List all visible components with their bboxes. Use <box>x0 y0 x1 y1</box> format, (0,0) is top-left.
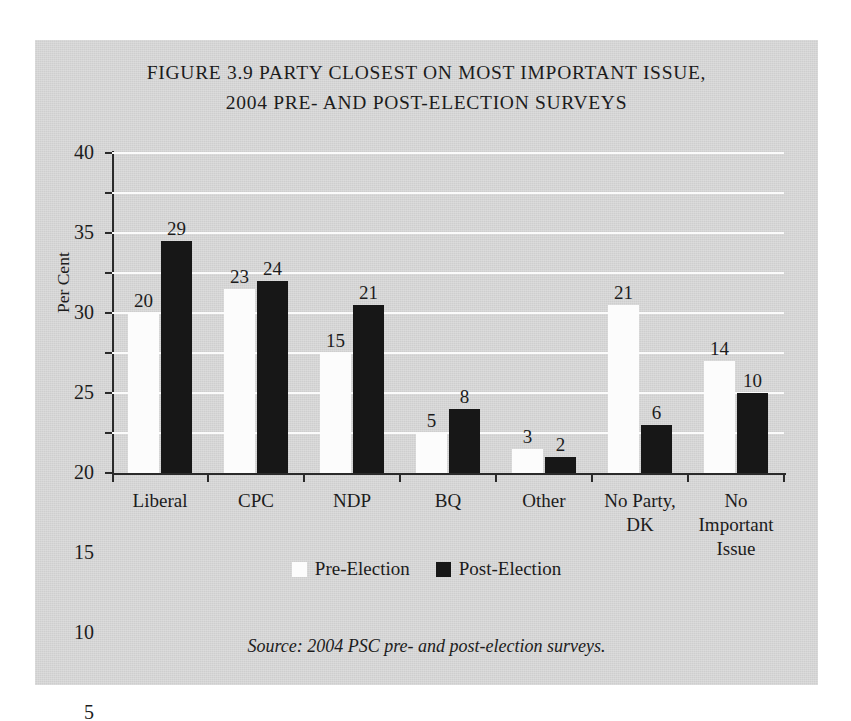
legend-label: Post-Election <box>459 558 561 580</box>
bar-value-label: 14 <box>710 339 729 358</box>
legend-swatch <box>292 562 307 577</box>
bar-value-label: 24 <box>263 259 282 278</box>
legend-label: Pre-Election <box>315 558 410 580</box>
y-axis-tick-label: 20 <box>74 461 94 484</box>
bar-post-election: 2 <box>545 457 576 473</box>
x-axis-tick-label: NDP <box>304 489 400 513</box>
bar-pre-election: 20 <box>128 313 159 473</box>
x-axis-tick <box>303 473 305 482</box>
y-axis-tick-label: 40 <box>74 141 94 164</box>
x-axis-tick-label-line: Important <box>699 514 774 535</box>
x-axis-tick-label-line: Liberal <box>133 490 188 511</box>
x-axis-tick-label: NoImportantIssue <box>688 489 784 561</box>
bar-post-election: 29 <box>161 241 192 473</box>
x-axis-tick <box>783 473 785 482</box>
x-axis-tick-label-line: NDP <box>333 490 371 511</box>
x-axis-tick-label-line: DK <box>626 514 653 535</box>
y-axis-tick-label: 30 <box>74 301 94 324</box>
bar-pre-election: 3 <box>512 449 543 473</box>
bar-pre-election: 5 <box>416 433 447 473</box>
x-axis-tick-label: Other <box>496 489 592 513</box>
bar-value-label: 6 <box>652 403 662 422</box>
y-axis-tick: 25 <box>105 272 112 274</box>
bar-value-label: 2 <box>556 435 566 454</box>
bar-value-label: 29 <box>167 219 186 238</box>
bar-post-election: 10 <box>737 393 768 473</box>
figure-title: Figure 3.9 Party Closest on Most Importa… <box>35 58 818 118</box>
bar-value-label: 3 <box>523 427 533 446</box>
x-axis-tick-label: BQ <box>400 489 496 513</box>
plot-area: 05101520253035402029Liberal2324CPC1521ND… <box>112 153 784 473</box>
y-axis-tick: 0 <box>105 472 112 474</box>
legend-item: Post-Election <box>436 558 561 580</box>
y-axis-tick: 20 <box>105 312 112 314</box>
bar-value-label: 20 <box>134 291 153 310</box>
figure-panel: Figure 3.9 Party Closest on Most Importa… <box>35 40 818 685</box>
y-axis-tick: 40 <box>105 152 112 154</box>
bar-pre-election: 23 <box>224 289 255 473</box>
x-axis-tick-label: CPC <box>208 489 304 513</box>
legend-item: Pre-Election <box>292 558 410 580</box>
x-axis-tick-label-line: CPC <box>238 490 274 511</box>
bar-post-election: 24 <box>257 281 288 473</box>
gridline <box>112 152 784 154</box>
plot-canvas: 05101520253035402029Liberal2324CPC1521ND… <box>112 153 784 473</box>
x-axis-tick-label-line: Issue <box>716 538 755 559</box>
gridline <box>112 312 784 314</box>
bar-pre-election: 21 <box>608 305 639 473</box>
bar-post-election: 6 <box>641 425 672 473</box>
bar-pre-election: 14 <box>704 361 735 473</box>
figure-title-line-1: Figure 3.9 Party Closest on Most Importa… <box>35 58 818 88</box>
y-axis-tick: 10 <box>105 392 112 394</box>
chart-legend: Pre-ElectionPost-Election <box>35 558 818 580</box>
bar-pre-election: 15 <box>320 353 351 473</box>
bar-value-label: 23 <box>230 267 249 286</box>
legend-swatch <box>436 562 451 577</box>
bar-value-label: 5 <box>427 411 437 430</box>
x-axis-line <box>112 473 786 475</box>
y-axis-tick: 5 <box>105 432 112 434</box>
gridline <box>112 392 784 394</box>
bar-value-label: 10 <box>743 371 762 390</box>
x-axis-tick <box>207 473 209 482</box>
gridline <box>112 352 784 354</box>
figure-root: Figure 3.9 Party Closest on Most Importa… <box>0 0 851 721</box>
y-axis-tick-label: 25 <box>74 381 94 404</box>
bar-value-label: 21 <box>614 283 633 302</box>
y-axis-tick-label: 35 <box>74 221 94 244</box>
y-axis-tick: 15 <box>105 352 112 354</box>
gridline <box>112 272 784 274</box>
bar-post-election: 8 <box>449 409 480 473</box>
x-axis-tick <box>399 473 401 482</box>
x-axis-tick-label-line: No Party, <box>604 490 676 511</box>
y-axis-tick-label: 5 <box>84 701 94 721</box>
x-axis-tick-label: Liberal <box>112 489 208 513</box>
y-axis-tick: 30 <box>105 232 112 234</box>
bar-value-label: 21 <box>359 283 378 302</box>
x-axis-tick-label-line: Other <box>522 490 565 511</box>
bar-value-label: 8 <box>460 387 470 406</box>
y-axis-label: Per Cent <box>53 252 74 313</box>
x-axis-tick <box>687 473 689 482</box>
gridline <box>112 432 784 434</box>
y-axis-tick: 35 <box>105 192 112 194</box>
x-axis-tick <box>591 473 593 482</box>
x-axis-tick-label-line: BQ <box>435 490 461 511</box>
x-axis-tick <box>112 473 114 482</box>
figure-title-line-2: 2004 Pre- and Post-Election Surveys <box>35 88 818 118</box>
source-note: Source: 2004 PSC pre- and post-election … <box>35 636 818 657</box>
x-axis-tick-label-line: No <box>724 490 747 511</box>
bar-value-label: 15 <box>326 331 345 350</box>
x-axis-tick-label: No Party,DK <box>592 489 688 537</box>
x-axis-tick <box>495 473 497 482</box>
gridline <box>112 232 784 234</box>
gridline <box>112 192 784 194</box>
bar-post-election: 21 <box>353 305 384 473</box>
